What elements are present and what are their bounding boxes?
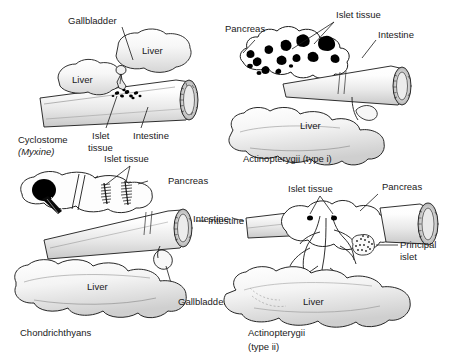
actino-ii-principal-islet-organ <box>352 234 374 255</box>
caption-chondrichthyans: Chondrichthyans <box>20 327 92 338</box>
caption-actino-i: Actinopterygii (type i) <box>243 153 332 164</box>
label-intestine-actino-ii: Intestine <box>193 213 229 224</box>
label-liver-cyclostome-left: Liver <box>72 74 93 85</box>
label-pancreas-actino-i: Pancreas <box>225 23 265 34</box>
label-intestine-cyclostome: Intestine <box>133 130 169 141</box>
label-principal-islet-line1: Principal <box>400 239 436 250</box>
anatomy-figure: Gallbladder Liver Liver Islet tissue Int… <box>0 0 459 362</box>
panel-chondrichthyans: Islet tissue Pancreas Intestine Liver Ga… <box>15 153 244 338</box>
caption-cyclostome-line2: (Myxine) <box>18 146 54 157</box>
label-intestine-actino-i: Intestine <box>378 29 414 40</box>
label-islet-cyclostome-line2: tissue <box>88 142 113 153</box>
label-islet-cyclostome-line1: Islet <box>92 130 110 141</box>
caption-cyclostome-line1: Cyclostome <box>18 134 68 145</box>
figure-canvas: Gallbladder Liver Liver Islet tissue Int… <box>0 0 459 362</box>
label-liver-actino-ii: Liver <box>303 296 324 307</box>
label-pancreas-chondrichthyans: Pancreas <box>168 175 208 186</box>
chondrichthyans-intestine-organ <box>44 209 193 259</box>
panel-actinopterygii-type-ii: Islet tissue Pancreas Intestine Principa… <box>193 181 439 352</box>
label-pancreas-actino-ii: Pancreas <box>382 181 422 192</box>
label-gallbladder-chondrichthyans: Gallbladder <box>178 296 227 307</box>
panel-actinopterygii-type-i: Pancreas Islet tissue Intestine Liver Ac… <box>225 9 414 165</box>
label-principal-islet-line2: islet <box>400 251 417 262</box>
label-liver-chondrichthyans: Liver <box>87 281 108 292</box>
label-islet-tissue-chondrichthyans: Islet tissue <box>104 153 149 164</box>
label-islet-tissue-actino-i: Islet tissue <box>336 9 381 20</box>
caption-actino-ii-line2: (type ii) <box>248 341 279 352</box>
label-liver-actino-i: Liver <box>300 120 321 131</box>
panel-cyclostome: Gallbladder Liver Liver Islet tissue Int… <box>18 15 198 157</box>
actino-i-pancreas-organ <box>240 27 349 79</box>
label-gallbladder-cyclostome: Gallbladder <box>68 15 117 26</box>
label-islet-tissue-actino-ii: Islet tissue <box>288 183 333 194</box>
label-liver-cyclostome-right: Liver <box>142 45 163 56</box>
caption-actino-ii-line1: Actinopterygii <box>248 327 305 338</box>
actino-ii-pancreas-organ <box>282 200 394 249</box>
